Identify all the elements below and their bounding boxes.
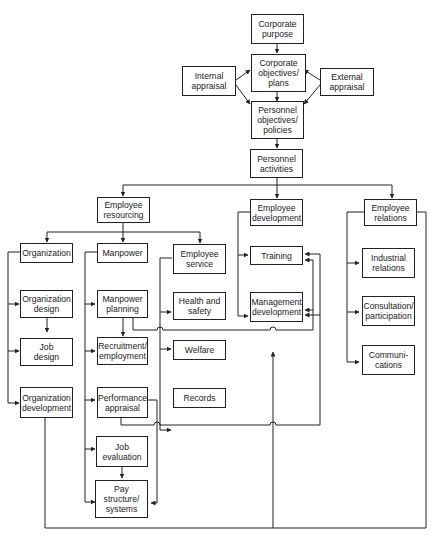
node-job-design: Job design [20,338,73,366]
node-manpower-planning: Manpower planning [97,290,148,318]
node-personnel-objectives: Personnel objectives/ policies [251,101,304,139]
node-corporate-objectives: Corporate objectives/ plans [251,54,306,92]
node-welfare: Welfare [173,340,226,360]
node-internal-appraisal: Internal appraisal [182,66,236,96]
node-consultation-participation: Consultation/ participation [362,296,415,326]
node-employee-service: Employee service [173,244,226,274]
node-employee-resourcing: Employee resourcing [97,197,150,223]
node-health-and-safety: Health and safety [173,292,226,320]
node-communications: Communi- cations [362,345,415,375]
node-external-appraisal: External appraisal [320,68,374,96]
personnel-management-diagram: Corporate purpose Corporate objectives/ … [0,0,432,536]
node-records: Records [173,388,226,408]
node-employee-development: Employee development [250,199,303,226]
node-organization: Organization [20,243,73,263]
node-employee-relations: Employee relations [364,199,417,226]
node-job-evaluation: Job evaluation [96,436,148,467]
node-organization-design: Organization design [20,290,73,318]
node-management-development: Management development [250,292,303,322]
node-corporate-purpose: Corporate purpose [251,14,304,44]
node-manpower: Manpower [97,243,148,263]
node-training: Training [250,246,303,265]
node-recruitment-employment: Recruitment/ employment [97,337,148,365]
node-pay-structure: Pay structure/ systems [95,480,148,518]
node-organization-development: Organization development [20,387,73,418]
node-performance-appraisal: Performance appraisal [97,387,148,418]
node-personnel-activities: Personnel activities [250,149,303,178]
node-industrial-relations: Industrial relations [362,248,415,278]
